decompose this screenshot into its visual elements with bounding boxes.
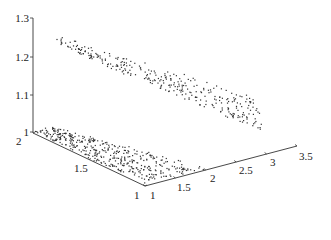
surface-point <box>236 106 237 107</box>
floor-point <box>177 171 178 172</box>
surface-point <box>233 113 234 114</box>
floor-point <box>116 158 117 159</box>
floor-point <box>186 170 187 171</box>
surface-point <box>150 82 151 83</box>
floor-point <box>55 131 56 132</box>
floor-point <box>183 168 184 169</box>
floor-point <box>174 166 175 167</box>
floor-point <box>140 156 141 157</box>
floor-point <box>86 150 87 151</box>
surface-point <box>190 92 191 93</box>
y-tick-label: 2 <box>210 172 216 184</box>
floor-point <box>167 161 168 162</box>
floor-point <box>155 169 156 170</box>
floor-point <box>109 165 110 166</box>
surface-point <box>244 115 245 116</box>
surface-point <box>140 67 141 68</box>
floor-point <box>161 177 162 178</box>
floor-point <box>89 142 90 143</box>
surface-point <box>182 86 183 87</box>
floor-point <box>54 130 55 131</box>
surface-point <box>160 79 161 80</box>
y-tick-label: 3 <box>270 156 276 168</box>
floor-point <box>153 157 154 158</box>
floor-point <box>124 147 125 148</box>
floor-point <box>110 155 111 156</box>
surface-point <box>232 101 233 102</box>
surface-point <box>253 114 254 115</box>
surface-point <box>166 79 167 80</box>
surface-point <box>255 118 256 119</box>
surface-point <box>74 41 75 42</box>
surface-point <box>127 72 128 73</box>
surface-point <box>147 74 148 75</box>
surface-point <box>246 119 247 120</box>
floor-point <box>123 171 124 172</box>
floor-point <box>136 162 137 163</box>
surface-point <box>148 78 149 79</box>
floor-point <box>156 161 157 162</box>
floor-point <box>114 145 115 146</box>
floor-point <box>118 158 119 159</box>
surface-point <box>221 88 222 89</box>
floor-point <box>95 152 96 153</box>
surface-point <box>124 68 125 69</box>
surface-point <box>165 89 166 90</box>
y-tick <box>204 169 206 171</box>
surface-point <box>222 109 223 110</box>
surface-point <box>226 90 227 91</box>
floor-point <box>180 161 181 162</box>
floor-point <box>85 147 86 148</box>
surface-point <box>116 69 117 70</box>
floor-point <box>52 136 53 137</box>
surface-point <box>163 80 164 81</box>
floor-point <box>129 161 130 162</box>
floor-point <box>52 139 53 140</box>
floor-point <box>99 151 100 152</box>
surface-point <box>83 53 84 54</box>
floor-point <box>140 159 141 160</box>
surface-point <box>179 78 180 79</box>
floor-point <box>109 147 110 148</box>
floor-point <box>141 168 142 169</box>
surface-point <box>109 53 110 54</box>
floor-point <box>187 168 188 169</box>
floor-point <box>72 149 73 150</box>
surface-point <box>121 67 122 68</box>
surface-point <box>151 71 152 72</box>
floor-point <box>77 140 78 141</box>
surface-point <box>236 94 237 95</box>
floor-point <box>65 139 66 140</box>
surface-point <box>230 113 231 114</box>
surface-point <box>246 116 247 117</box>
floor-point <box>119 151 120 152</box>
surface-point <box>122 71 123 72</box>
surface-point <box>121 64 122 65</box>
surface-point <box>76 46 77 47</box>
floor-point <box>151 155 152 156</box>
surface-point <box>239 116 240 117</box>
surface-point <box>175 86 176 87</box>
floor-point <box>62 135 63 136</box>
floor-point <box>76 146 77 147</box>
floor-point <box>166 168 167 169</box>
surface-point <box>191 95 192 96</box>
floor-point <box>91 138 92 139</box>
surface-point <box>117 59 118 60</box>
surface-point <box>139 66 140 67</box>
surface-point <box>126 65 127 66</box>
surface-point <box>105 59 106 60</box>
surface-point <box>70 42 71 43</box>
floor-point <box>101 163 102 164</box>
surface-point <box>213 88 214 89</box>
surface-point <box>185 83 186 84</box>
floor-point <box>134 149 135 150</box>
surface-point <box>260 127 261 128</box>
floor-point <box>101 157 102 158</box>
surface-point <box>88 55 89 56</box>
y-tick-label: 2.5 <box>239 164 253 176</box>
surface-point <box>117 66 118 67</box>
floor-point <box>114 157 115 158</box>
floor-point <box>37 132 38 133</box>
surface-point <box>171 85 172 86</box>
